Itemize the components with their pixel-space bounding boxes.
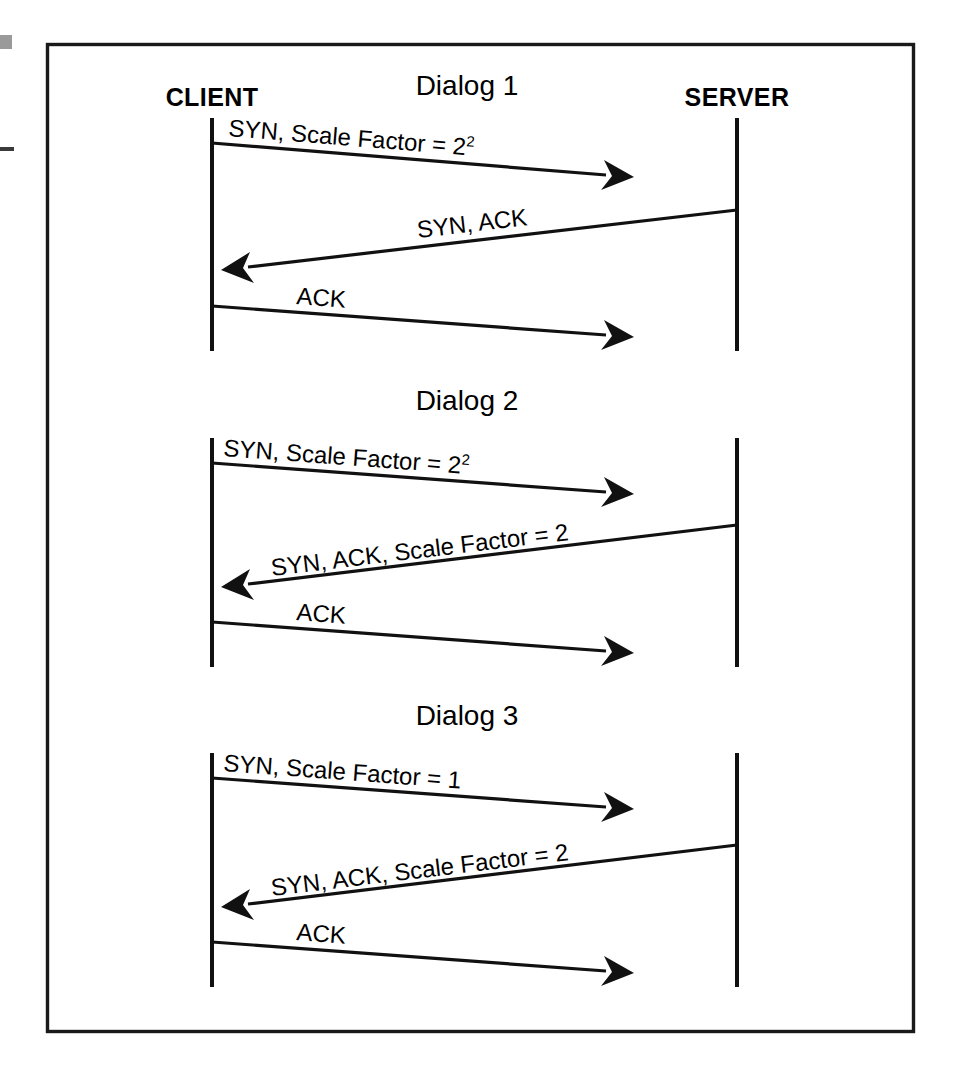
figure-root: CLIENT SERVER Dialog 1 SYN, Scale Factor… [0, 0, 962, 1081]
message-superscript: 2 [466, 132, 476, 150]
participant-label-server: SERVER [685, 83, 790, 111]
participant-label-client: CLIENT [166, 83, 259, 111]
message-text: ACK [296, 598, 347, 629]
message-text: ACK [296, 918, 347, 949]
dialog-title-1: Dialog 1 [416, 70, 519, 101]
message-label-2-3: ACK [296, 598, 347, 629]
dialog-title-2: Dialog 2 [416, 385, 519, 416]
margin-artifact-square [0, 35, 12, 49]
message-label-3-3: ACK [296, 918, 347, 949]
message-text: ACK [296, 282, 347, 313]
margin-artifact-dash [0, 147, 14, 151]
dialog-title-3: Dialog 3 [416, 700, 519, 731]
message-superscript: 2 [461, 451, 471, 469]
message-label-1-3: ACK [296, 282, 347, 313]
sequence-diagram-canvas: CLIENT SERVER Dialog 1 SYN, Scale Factor… [0, 0, 962, 1081]
